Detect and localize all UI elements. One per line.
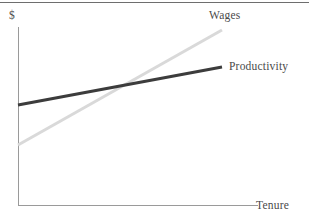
line-chart-plot (0, 0, 309, 220)
series-label-productivity: Productivity (229, 61, 288, 73)
series-label-wages: Wages (209, 10, 240, 22)
series-line-productivity (18, 67, 222, 105)
x-axis-label: Tenure (256, 200, 289, 212)
y-axis-label: $ (9, 10, 15, 22)
chart-figure: $ Tenure Wages Productivity (0, 0, 309, 220)
